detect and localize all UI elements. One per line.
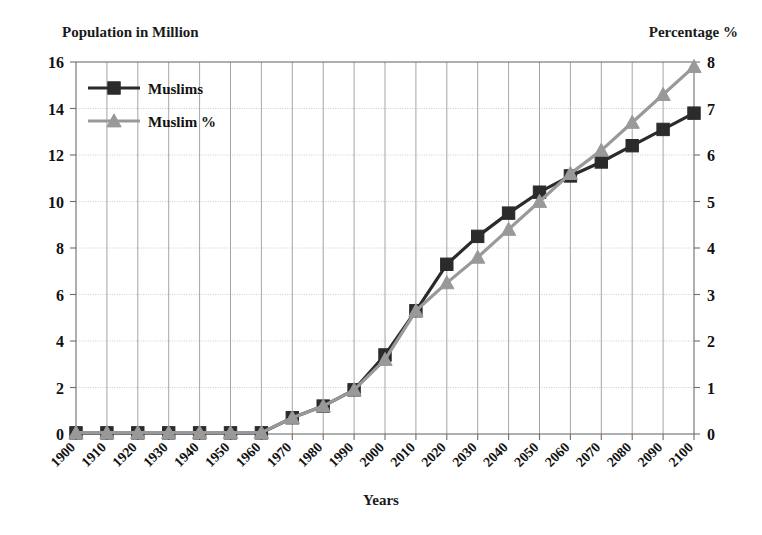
svg-text:2070: 2070	[573, 440, 603, 470]
x-axis-title: Years	[0, 492, 762, 509]
chart-container: Population in Million Percentage % Years…	[0, 0, 762, 535]
svg-text:2100: 2100	[666, 440, 696, 470]
svg-text:2000: 2000	[357, 440, 387, 470]
svg-text:2: 2	[707, 333, 715, 350]
svg-text:1960: 1960	[233, 440, 263, 470]
svg-text:0: 0	[56, 426, 64, 443]
svg-text:1900: 1900	[48, 440, 78, 470]
svg-text:8: 8	[56, 240, 64, 257]
svg-text:8: 8	[707, 54, 715, 71]
chart-plot-area: 0246810121416 012345678 1900191019201930…	[0, 0, 762, 535]
svg-text:2: 2	[56, 380, 64, 397]
svg-text:4: 4	[56, 333, 64, 350]
svg-text:1950: 1950	[202, 440, 232, 470]
svg-text:2090: 2090	[635, 440, 665, 470]
x-axis-ticks: 1900191019201930194019501960197019801990…	[48, 434, 696, 470]
right-axis-title: Percentage %	[649, 24, 738, 41]
svg-text:1990: 1990	[326, 440, 356, 470]
svg-text:2010: 2010	[388, 440, 418, 470]
svg-text:1930: 1930	[140, 440, 170, 470]
svg-text:6: 6	[56, 287, 64, 304]
legend-label: Muslims	[148, 81, 203, 97]
svg-text:3: 3	[707, 287, 715, 304]
svg-text:0: 0	[707, 426, 715, 443]
legend-item: Muslims	[88, 81, 203, 97]
left-axis-ticks: 0246810121416	[48, 54, 76, 443]
svg-text:2020: 2020	[419, 440, 449, 470]
svg-text:5: 5	[707, 194, 715, 211]
svg-text:1980: 1980	[295, 440, 325, 470]
legend-label: Muslim %	[148, 114, 216, 130]
svg-text:14: 14	[48, 101, 64, 118]
svg-text:1970: 1970	[264, 440, 294, 470]
svg-text:2030: 2030	[449, 440, 479, 470]
svg-text:2040: 2040	[480, 440, 510, 470]
svg-text:1940: 1940	[171, 440, 201, 470]
svg-text:10: 10	[48, 194, 64, 211]
svg-text:16: 16	[48, 54, 64, 71]
svg-text:2050: 2050	[511, 440, 541, 470]
svg-text:2080: 2080	[604, 440, 634, 470]
svg-text:1920: 1920	[110, 440, 140, 470]
svg-text:1: 1	[707, 380, 715, 397]
svg-text:4: 4	[707, 240, 715, 257]
left-axis-title: Population in Million	[62, 24, 199, 41]
svg-text:12: 12	[48, 147, 64, 164]
svg-text:7: 7	[707, 101, 715, 118]
svg-text:6: 6	[707, 147, 715, 164]
svg-text:2060: 2060	[542, 440, 572, 470]
svg-text:1910: 1910	[79, 440, 109, 470]
